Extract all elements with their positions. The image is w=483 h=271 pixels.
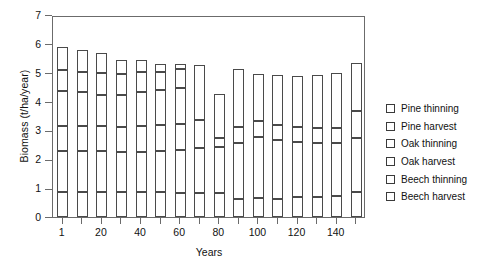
y-axis-tick-label: 3 — [22, 124, 41, 136]
bar — [253, 74, 264, 217]
bar — [233, 69, 244, 217]
bar-segment — [194, 65, 205, 120]
y-axis-tick — [45, 73, 52, 74]
legend-item: Oak harvest — [386, 153, 482, 171]
legend-swatch — [386, 104, 395, 113]
y-axis-tick — [45, 44, 52, 45]
bar-segment — [96, 73, 107, 94]
legend-label: Pine harvest — [401, 121, 457, 132]
bar-segment — [272, 199, 283, 217]
bar-segment — [116, 127, 127, 152]
y-axis-tick — [45, 160, 52, 161]
legend-swatch — [386, 139, 395, 148]
x-axis-tick — [120, 218, 121, 224]
bar-segment — [155, 72, 166, 90]
x-axis-tick-label: 1 — [42, 226, 82, 238]
legend-label: Beech harvest — [401, 191, 465, 202]
bar-segment — [77, 72, 88, 92]
bar-segment — [57, 126, 68, 151]
x-axis-title: Years — [52, 246, 366, 258]
bar — [312, 75, 323, 217]
x-axis-tick-label: 60 — [159, 226, 199, 238]
legend-swatch — [386, 175, 395, 184]
bar — [175, 64, 186, 217]
bar-segment — [312, 75, 323, 128]
bar-segment — [116, 95, 127, 127]
bar — [272, 75, 283, 217]
x-axis-tick — [316, 218, 317, 224]
bar-segment — [155, 192, 166, 217]
bar — [214, 94, 225, 217]
chart-figure: Biomass (t/ha/year) Years 01234567 12040… — [0, 0, 483, 271]
bar-segment — [351, 192, 362, 217]
bar-segment — [77, 92, 88, 125]
bar-segment — [155, 90, 166, 125]
bar-segment — [155, 125, 166, 151]
y-axis-tick — [45, 217, 52, 218]
bar-segment — [233, 143, 244, 200]
bar-segment — [312, 197, 323, 217]
legend-item: Beech thinning — [386, 170, 482, 188]
bar-segment — [96, 192, 107, 217]
bar-segment — [331, 143, 342, 197]
legend-swatch — [386, 192, 395, 201]
bar-segment — [194, 120, 205, 148]
bar-segment — [331, 73, 342, 128]
x-axis-tick — [218, 218, 219, 224]
bar-segment — [194, 193, 205, 217]
bar-segment — [175, 150, 186, 193]
bar-segment — [351, 111, 362, 138]
bar-segment — [136, 126, 147, 152]
bar-segment — [312, 128, 323, 143]
legend-item: Beech harvest — [386, 188, 482, 206]
x-axis-tick-label: 140 — [316, 226, 356, 238]
bar-segment — [136, 192, 147, 217]
bar-segment — [292, 197, 303, 217]
bar-segment — [331, 128, 342, 142]
y-axis-tick-label: 2 — [22, 153, 41, 165]
legend-swatch — [386, 157, 395, 166]
legend-label: Beech thinning — [401, 174, 467, 185]
bar-segment — [253, 137, 264, 198]
bar-segment — [175, 88, 186, 124]
bar-segment — [155, 151, 166, 193]
bar-segment — [214, 138, 225, 147]
bar — [155, 64, 166, 217]
x-axis-tick-label: 20 — [81, 226, 121, 238]
bar — [351, 63, 362, 217]
bar-segment — [116, 60, 127, 74]
x-axis-tick-label: 100 — [237, 226, 277, 238]
bar-segment — [77, 126, 88, 151]
x-axis-tick — [238, 218, 239, 224]
x-axis-tick — [297, 218, 298, 224]
legend-item: Pine harvest — [386, 118, 482, 136]
bar-segment — [96, 53, 107, 74]
legend-label: Oak harvest — [401, 156, 455, 167]
y-axis-tick-label: 4 — [22, 96, 41, 108]
bar-series-group — [53, 17, 364, 217]
bar-segment — [116, 192, 127, 217]
bar-segment — [253, 74, 264, 121]
bar-segment — [77, 151, 88, 191]
bar-segment — [351, 138, 362, 192]
x-axis-tick — [140, 218, 141, 224]
y-axis-tick-label: 0 — [22, 211, 41, 223]
y-axis-tick-label: 7 — [22, 9, 41, 21]
bar-segment — [77, 50, 88, 72]
bar — [77, 50, 88, 217]
bar-segment — [292, 76, 303, 127]
bar — [194, 65, 205, 217]
x-axis-tick — [62, 218, 63, 224]
bar — [292, 76, 303, 217]
bar-segment — [96, 151, 107, 192]
bar-segment — [351, 63, 362, 111]
y-axis-tick — [45, 102, 52, 103]
bar-segment — [253, 121, 264, 137]
x-axis-tick — [81, 218, 82, 224]
bar-segment — [96, 126, 107, 151]
bar-segment — [57, 70, 68, 91]
x-axis-tick-label: 120 — [277, 226, 317, 238]
bar-segment — [136, 72, 147, 92]
bar-segment — [292, 142, 303, 197]
bar-segment — [214, 193, 225, 217]
